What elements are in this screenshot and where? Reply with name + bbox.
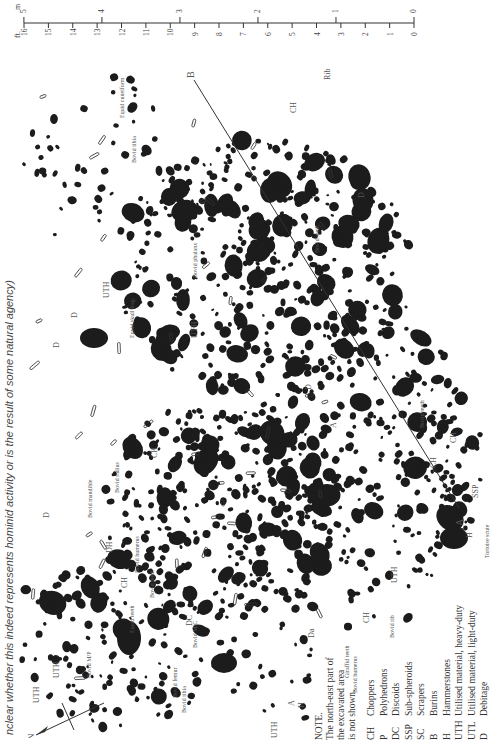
map-label: A: [329, 422, 338, 428]
legend-meaning: Utilised material, heavy-duty: [454, 605, 465, 716]
svg-text:15: 15: [44, 28, 53, 36]
map-label: UTH: [32, 686, 41, 703]
map-label: Bovid radius: [114, 462, 120, 493]
legend-code: SSP: [404, 724, 415, 740]
map-label: Bovid M/P: [86, 651, 92, 678]
north-label: N: [26, 733, 36, 738]
map-label: UTH: [52, 661, 61, 678]
section-line-a-b: [194, 80, 459, 508]
note-line: is not shown.: [347, 690, 358, 740]
svg-text:4: 4: [313, 32, 322, 36]
map-label: CH: [289, 102, 298, 113]
scale-bar: mft.161514131211109876543210543210: [14, 0, 434, 40]
svg-text:11: 11: [142, 29, 151, 36]
svg-text:0: 0: [410, 32, 419, 36]
legend-code: DC: [391, 727, 402, 740]
section-label-a: A: [454, 518, 465, 526]
map-label: SSP: [471, 484, 480, 498]
map-label: UTH: [390, 566, 399, 583]
legend-meaning: Choppers: [366, 680, 377, 716]
map-label: Bovid tibia: [131, 136, 137, 163]
legend-code: B: [429, 734, 440, 740]
legend-code: SC: [416, 728, 427, 740]
legend-code: UTL: [467, 722, 478, 740]
svg-text:3: 3: [337, 32, 346, 36]
map-label: Equid teeth: [129, 606, 135, 634]
svg-text:1: 1: [386, 32, 395, 36]
map-label: Bovid teeth: [419, 400, 425, 428]
svg-text:16: 16: [20, 28, 29, 36]
map-label: H: [297, 702, 306, 708]
svg-text:10: 10: [166, 28, 175, 36]
map-label: CH: [362, 612, 371, 623]
map-label: A: [287, 700, 296, 706]
map-label: D: [42, 512, 51, 518]
map-label: D: [52, 342, 61, 348]
map-label: CH: [429, 457, 438, 468]
note-heading: NOTE.: [314, 712, 325, 740]
note-line: The north-east part of: [325, 657, 336, 740]
legend-meaning: Debitage: [479, 682, 490, 716]
map-label: Bovid humerus: [134, 536, 140, 573]
legend-meaning: Scrapers: [416, 683, 427, 716]
map-label: Bovid phalanx: [192, 243, 198, 278]
map-label: CH: [449, 432, 458, 443]
svg-text:13: 13: [93, 28, 102, 36]
svg-text:4: 4: [97, 9, 106, 13]
map-label: H: [465, 532, 474, 538]
section-label-b: B: [185, 71, 196, 78]
svg-text:7: 7: [239, 32, 248, 36]
svg-text:m: m: [14, 3, 22, 10]
map-label: Bovid femur: [172, 668, 178, 699]
svg-text:9: 9: [191, 32, 200, 36]
svg-text:2: 2: [361, 32, 370, 36]
map-label: UTH: [102, 281, 111, 298]
map-label: D: [304, 384, 313, 390]
map-label: Bovid teeth: [149, 570, 155, 598]
svg-text:3: 3: [175, 9, 184, 13]
svg-text:1: 1: [331, 9, 340, 13]
map-label: DH: [105, 541, 114, 553]
legend-meaning: Sub-spheroids: [404, 662, 415, 716]
svg-text:6: 6: [264, 32, 273, 36]
legend-meaning: Hammerstones: [442, 659, 453, 716]
map-label: CH: [120, 577, 129, 588]
map-label: UTH: [270, 721, 279, 738]
legend-code: P: [379, 735, 390, 740]
svg-text:5: 5: [288, 32, 297, 36]
map-label: D: [70, 312, 79, 318]
svg-text:2: 2: [253, 9, 262, 13]
map-label: D: [357, 192, 366, 198]
map-label: Tortoise scute: [484, 524, 490, 558]
legend-meaning: Discoids: [391, 683, 402, 716]
legend-code: D: [479, 733, 490, 740]
map-label: Bovid tibia: [181, 686, 187, 713]
map-label: Bovid M/C: [192, 621, 198, 648]
map-label: Bovid teeth: [314, 225, 320, 253]
note-line: the excavated area: [336, 670, 347, 740]
legend-meaning: Utilised material, light-duty: [467, 610, 478, 716]
legend-code: H: [442, 733, 453, 740]
map-label: CH: [150, 447, 159, 458]
map-label: Equid skull frag.: [129, 297, 135, 338]
map-label: Bovid mandible: [87, 479, 93, 518]
legend-meaning: Burins: [429, 691, 440, 716]
svg-text:8: 8: [215, 32, 224, 36]
svg-text:0: 0: [409, 9, 418, 13]
svg-text:5: 5: [19, 9, 28, 13]
legend-code: CH: [366, 727, 377, 740]
map-label: Rib: [323, 68, 332, 80]
map-label: UTH: [190, 321, 199, 338]
legend: NOTE.The north-east part ofthe excavated…: [312, 628, 492, 741]
legend-code: UTH: [454, 720, 465, 740]
map-label: Equid cuneiform: [119, 77, 125, 118]
legend-meaning: Polyhedrons: [379, 669, 390, 717]
svg-text:12: 12: [118, 28, 127, 36]
svg-text:14: 14: [69, 28, 78, 36]
